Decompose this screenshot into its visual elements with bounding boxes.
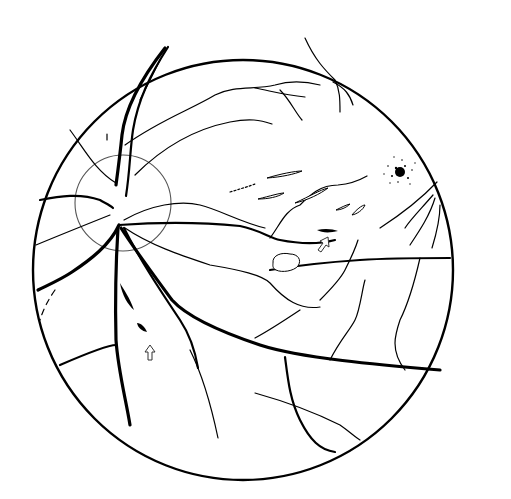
vessel-superotemporal-2 xyxy=(135,120,272,175)
vessel-branch-f xyxy=(320,240,358,300)
vessel-inferior-main xyxy=(116,228,130,425)
exudate-blob xyxy=(273,253,300,271)
vessel-nasal-1 xyxy=(40,196,113,208)
hemorrhage-inferior-1 xyxy=(120,283,134,310)
fundus-diagram xyxy=(0,0,511,499)
macula-pigment xyxy=(383,156,415,184)
vessel-branch-h xyxy=(330,280,365,360)
vessel-inferior-branch-2 xyxy=(190,350,218,438)
vessel-inferotemporal-main xyxy=(121,228,440,370)
vessel-inferonasal-main xyxy=(38,225,119,290)
vessel-branch-a xyxy=(255,88,305,97)
vessel-inferior-branch-1 xyxy=(60,345,116,365)
vessel-superior-main xyxy=(116,48,165,185)
arrow-up-icon xyxy=(145,345,155,360)
vessel-inferotemporal-2 xyxy=(124,228,198,368)
cotton-wool-spot-1 xyxy=(267,171,302,178)
vessel-superior-2 xyxy=(126,47,168,196)
hemorrhage-temporal xyxy=(317,229,338,232)
cotton-wool-spot-5 xyxy=(352,205,365,215)
vessel-branch-e xyxy=(255,310,300,338)
hemorrhage-inferior-2 xyxy=(137,323,147,332)
vessel-branch-g xyxy=(395,258,420,370)
cotton-wool-spot-6 xyxy=(336,204,350,210)
vessel-superotemporal-1 xyxy=(125,82,320,145)
vessel-nasal-2 xyxy=(36,215,110,245)
cotton-wool-spot-2 xyxy=(258,193,284,199)
vessel-temporal-main xyxy=(119,223,335,243)
vessel-fan-3 xyxy=(410,198,435,245)
vessel-wavy xyxy=(270,176,367,238)
vessel-inferonasal-dashed xyxy=(40,290,55,320)
vessel-fan-4 xyxy=(432,205,440,248)
arrow-up-icon xyxy=(318,237,329,252)
optic-disc xyxy=(75,155,171,251)
vessel-fan-2 xyxy=(405,195,433,228)
vessel-branch-b xyxy=(280,90,302,120)
fundus-boundary xyxy=(33,60,453,480)
cotton-wool-spot-3 xyxy=(295,188,328,203)
vessel-fan-1 xyxy=(380,182,437,228)
cotton-wool-spot-4 xyxy=(230,184,255,192)
